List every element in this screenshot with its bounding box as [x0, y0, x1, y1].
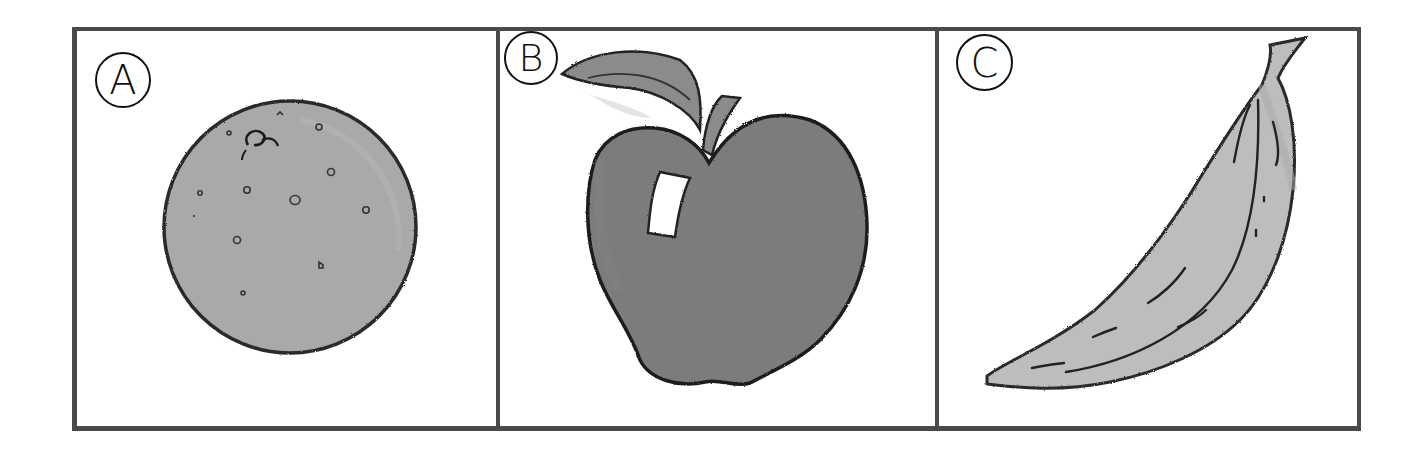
fruit-figure: A B C: [0, 0, 1421, 450]
panel-label-c: C: [956, 34, 1013, 91]
banana-icon: [987, 38, 1305, 388]
panel-label-c-text: C: [971, 43, 999, 83]
fruit-artwork: [0, 0, 1421, 450]
orange-icon: [164, 101, 416, 353]
apple-icon: [562, 52, 867, 385]
panel-label-a: A: [95, 52, 151, 108]
panel-label-a-text: A: [109, 60, 136, 100]
panel-label-b-text: B: [519, 39, 544, 77]
panel-label-b: B: [504, 31, 558, 85]
